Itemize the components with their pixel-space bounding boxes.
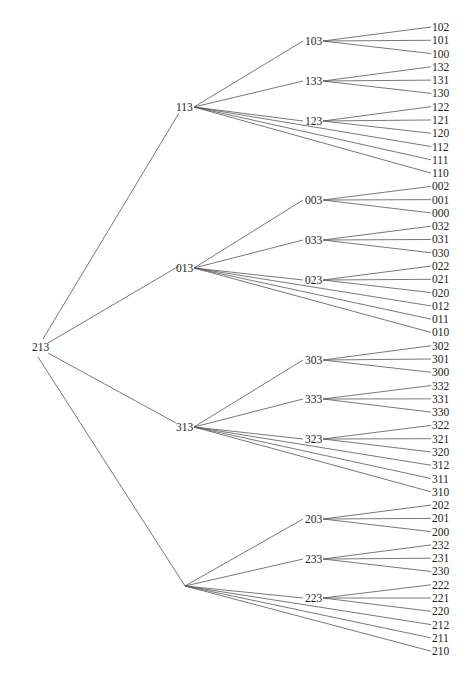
- leaf-node-label: 311: [432, 473, 449, 485]
- tree-edge: [194, 41, 303, 107]
- leaf-node-label: 200: [432, 526, 450, 538]
- tree-edge: [323, 360, 431, 372]
- level2-node-label: 233: [305, 553, 323, 565]
- leaf-node-label: 230: [432, 565, 450, 577]
- tree-edge: [323, 519, 431, 532]
- leaf-node-label: 001: [432, 194, 450, 206]
- leaf-node-label: 030: [432, 247, 450, 259]
- tree-edge: [194, 81, 303, 107]
- level1-node-label: 013: [176, 262, 194, 274]
- leaf-node-label: 110: [432, 167, 449, 179]
- leaf-node-label: 111: [432, 154, 449, 166]
- leaf-node-label: 300: [432, 366, 450, 378]
- tree-edge: [323, 107, 431, 121]
- leaf-node-label: 002: [432, 180, 450, 192]
- level2-node-label: 333: [305, 393, 323, 405]
- level2-node-label: 133: [305, 75, 323, 87]
- tree-edge: [185, 519, 303, 586]
- tree-edge: [323, 545, 431, 559]
- leaf-node-label: 202: [432, 499, 450, 511]
- level2-node-label: 303: [305, 354, 323, 366]
- leaf-node-label: 120: [432, 127, 450, 139]
- leaf-node-label: 112: [432, 141, 449, 153]
- tree-edge: [185, 559, 303, 586]
- tree-edge: [48, 353, 176, 423]
- tree-edge: [323, 439, 431, 452]
- tree-edge: [38, 357, 185, 586]
- tree-edge: [323, 41, 431, 54]
- leaf-node-label: 101: [432, 34, 450, 46]
- level2-node-label: 033: [305, 234, 323, 246]
- tree-edge: [48, 266, 179, 343]
- tree-edge: [43, 113, 179, 339]
- leaf-node-label: 212: [432, 619, 450, 631]
- tree-edges: [38, 27, 431, 651]
- leaf-node-label: 102: [432, 21, 450, 33]
- tree-edge: [185, 586, 303, 598]
- tree-edge: [194, 240, 303, 268]
- leaf-node-label: 232: [432, 539, 450, 551]
- tree-edge: [323, 40, 431, 41]
- tree-edge: [323, 80, 431, 81]
- tree-edge: [323, 226, 431, 240]
- tree-edge: [323, 505, 431, 519]
- tree-edge: [323, 67, 431, 81]
- leaf-node-label: 231: [432, 552, 450, 564]
- leaf-node-label: 132: [432, 61, 450, 73]
- leaf-node-label: 201: [432, 512, 450, 524]
- tree-edge: [323, 386, 431, 399]
- leaf-node-label: 220: [432, 605, 450, 617]
- tree-diagram: 2131130133131031331230030330233033333232…: [0, 0, 471, 680]
- level1-node-label: 113: [176, 101, 193, 113]
- tree-edge: [194, 360, 303, 427]
- leaf-node-label: 330: [432, 406, 450, 418]
- leaf-node-label: 121: [432, 114, 450, 126]
- tree-edge: [323, 425, 431, 439]
- leaf-node-label: 321: [432, 433, 450, 445]
- leaf-node-label: 012: [432, 300, 450, 312]
- tree-edge: [323, 280, 431, 293]
- tree-edge: [194, 200, 303, 268]
- leaf-node-label: 301: [432, 353, 450, 365]
- tree-edge: [323, 559, 431, 571]
- leaf-node-label: 000: [432, 207, 450, 219]
- tree-edge: [323, 266, 431, 280]
- tree-edge: [323, 518, 431, 519]
- leaf-node-label: 022: [432, 260, 450, 272]
- leaf-node-label: 032: [432, 220, 450, 232]
- level1-node-label: 313: [176, 421, 194, 433]
- tree-edge: [323, 239, 431, 240]
- level2-node-label: 023: [305, 274, 323, 286]
- tree-edge: [323, 359, 431, 360]
- leaf-node-label: 332: [432, 380, 450, 392]
- leaf-node-label: 021: [432, 273, 450, 285]
- leaf-node-label: 322: [432, 419, 450, 431]
- leaf-node-label: 100: [432, 48, 450, 60]
- tree-node-labels: 2131130133131031331230030330233033333232…: [32, 21, 450, 657]
- leaf-node-label: 210: [432, 645, 450, 657]
- tree-edge: [323, 558, 431, 559]
- leaf-node-label: 320: [432, 446, 450, 458]
- level2-node-label: 003: [305, 194, 323, 206]
- tree-edge: [323, 399, 431, 412]
- tree-edge: [194, 427, 303, 439]
- tree-edge: [194, 399, 303, 427]
- leaf-node-label: 130: [432, 87, 450, 99]
- level2-node-label: 203: [305, 513, 323, 525]
- tree-edge: [323, 27, 431, 41]
- leaf-node-label: 011: [432, 313, 449, 325]
- leaf-node-label: 331: [432, 393, 450, 405]
- tree-edge: [323, 585, 431, 598]
- root-node-label: 213: [32, 341, 50, 353]
- leaf-node-label: 221: [432, 592, 450, 604]
- leaf-node-label: 131: [432, 74, 450, 86]
- level2-node-label: 123: [305, 115, 323, 127]
- level2-node-label: 103: [305, 35, 323, 47]
- tree-edge: [323, 186, 431, 200]
- tree-edge: [323, 346, 431, 360]
- leaf-node-label: 122: [432, 101, 450, 113]
- leaf-node-label: 031: [432, 233, 450, 245]
- leaf-node-label: 010: [432, 326, 450, 338]
- tree-edge: [194, 268, 303, 280]
- leaf-node-label: 222: [432, 579, 450, 591]
